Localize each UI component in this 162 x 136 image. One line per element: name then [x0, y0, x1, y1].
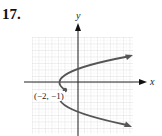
- graph: [0, 0, 162, 136]
- y-axis-arrow-icon: [75, 23, 81, 31]
- x-axis-label: x: [150, 76, 154, 87]
- x-axis-arrow-icon: [139, 79, 147, 85]
- grid: [32, 37, 133, 134]
- y-axis-label: y: [76, 10, 80, 21]
- vertex-label: (−2, −1): [33, 91, 65, 101]
